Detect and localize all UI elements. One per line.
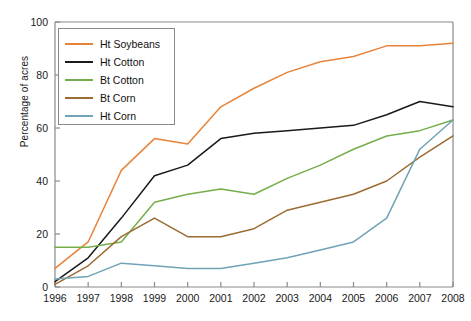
legend-item[interactable]: Bt Corn xyxy=(59,89,174,107)
chart-legend: Ht SoybeansHt CottonBt CottonBt CornHt C… xyxy=(58,28,175,125)
legend-label: Ht Soybeans xyxy=(100,38,160,50)
series-line-bt-corn xyxy=(55,136,453,284)
legend-label: Bt Cotton xyxy=(100,74,144,86)
legend-item[interactable]: Ht Soybeans xyxy=(59,35,174,53)
legend-label: Ht Cotton xyxy=(100,56,144,68)
line-chart: Percentage of acres 020406080100 1996199… xyxy=(0,0,471,321)
legend-color-swatch xyxy=(65,97,93,99)
legend-color-swatch xyxy=(65,61,93,63)
legend-item[interactable]: Ht Cotton xyxy=(59,53,174,71)
series-line-ht-corn xyxy=(55,120,453,279)
legend-item[interactable]: Ht Corn xyxy=(59,107,174,125)
legend-label: Ht Corn xyxy=(100,110,136,122)
legend-color-swatch xyxy=(65,115,93,117)
legend-color-swatch xyxy=(65,79,93,81)
legend-item[interactable]: Bt Cotton xyxy=(59,71,174,89)
legend-color-swatch xyxy=(65,43,93,45)
legend-label: Bt Corn xyxy=(100,92,136,104)
series-line-ht-cotton xyxy=(55,102,453,282)
